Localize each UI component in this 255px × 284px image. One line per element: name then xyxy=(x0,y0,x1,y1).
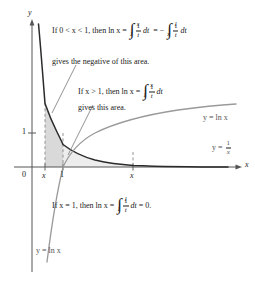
figure-canvas: If 0 < x < 1, then ln x = ∫x11tdt = −∫1x… xyxy=(0,0,255,284)
anno2-int1-num: 1 xyxy=(149,84,155,91)
integral-sign-icon: ∫1x xyxy=(167,24,172,37)
leader-line-positive-area xyxy=(68,105,93,155)
anno1-middle-op: = − xyxy=(151,26,164,35)
x-tick-label-one: 1 xyxy=(60,170,64,179)
origin-label: 0 xyxy=(22,170,26,179)
anno2-line2: gives this area. xyxy=(78,103,126,112)
anno3-integral-1: ∫111tdt xyxy=(116,198,136,214)
anno1-prefix: If 0 < x < 1, then ln x = xyxy=(52,26,129,35)
anno1-line2: gives the negative of this area. xyxy=(52,57,149,66)
anno3-int1-num: 1 xyxy=(123,198,129,205)
leader-line-negative-area xyxy=(52,65,76,113)
hyperbola-label-text: y = xyxy=(212,143,225,152)
anno1-int1-lower: 1 xyxy=(130,31,133,37)
anno1-int2-den: t xyxy=(174,32,178,39)
anno1-int2-num: 1 xyxy=(173,23,179,30)
anno1-int1-den: t xyxy=(136,32,140,39)
anno1-int1-diff: dt xyxy=(143,27,149,35)
anno3-int1-fraction: 1t xyxy=(123,198,129,214)
log-curve-label-lower: y = ln x xyxy=(36,246,61,255)
anno2-int1-den: t xyxy=(150,93,154,100)
anno2-int1-fraction: 1t xyxy=(149,84,155,100)
annotation-case-equal-one: If x = 1, then ln x = ∫111tdt = 0. xyxy=(52,198,151,214)
log-curve-label: y = ln x xyxy=(203,113,228,122)
x-tick-label-left: x xyxy=(42,171,46,180)
integral-sign-icon: ∫x1 xyxy=(130,24,135,37)
annotation-case-less-than-one: If 0 < x < 1, then ln x = ∫x11tdt = −∫1x… xyxy=(52,23,187,39)
shaded-region-positive xyxy=(63,145,133,168)
anno3-int1-den: t xyxy=(124,207,128,214)
integral-sign-icon: ∫11 xyxy=(117,199,122,212)
hyperbola-label-den: x xyxy=(226,149,231,156)
anno2-int1-lower: 1 xyxy=(143,92,146,98)
anno2-prefix: If x > 1, then ln x = xyxy=(78,87,142,96)
x-tick-label-right: x xyxy=(130,171,134,180)
anno1-int2-diff: dt xyxy=(180,27,186,35)
anno1-integral-2: ∫1x1tdt xyxy=(166,23,186,39)
anno2-int1-diff: dt xyxy=(157,88,163,96)
hyperbola-label-fraction: 1x xyxy=(226,140,232,156)
shaded-region-negative xyxy=(45,104,63,168)
annotation-positive-area-caption: gives this area. xyxy=(78,104,126,112)
anno3-prefix: If x = 1, then ln x = xyxy=(52,201,116,210)
hyperbola-label-num: 1 xyxy=(226,140,232,147)
hyperbola-curve-label: y = 1x xyxy=(212,140,232,156)
anno3-suffix: = 0. xyxy=(137,201,152,210)
anno1-integral-1: ∫x11tdt xyxy=(129,23,149,39)
annotation-negative-area-caption: gives the negative of this area. xyxy=(52,58,149,66)
anno2-integral-1: ∫x11tdt xyxy=(142,84,162,100)
log-curve xyxy=(47,104,236,262)
anno1-int2-fraction: 1t xyxy=(173,23,179,39)
y-tick-label-one: 1 xyxy=(22,127,26,136)
x-axis-label: x xyxy=(245,160,249,169)
integral-sign-icon: ∫x1 xyxy=(143,85,148,98)
x-axis-arrow xyxy=(236,165,243,170)
anno1-int1-num: 1 xyxy=(136,23,142,30)
y-axis-label: y xyxy=(28,8,32,17)
annotation-case-greater-than-one: If x > 1, then ln x = ∫x11tdt xyxy=(78,84,163,100)
anno1-int1-fraction: 1t xyxy=(136,23,142,39)
anno3-int1-lower: 1 xyxy=(117,206,120,212)
y-axis-arrow xyxy=(30,19,35,26)
anno1-int2-lower: x xyxy=(167,31,170,37)
